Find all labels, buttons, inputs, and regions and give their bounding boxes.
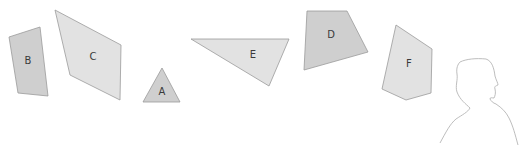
shape-c: C xyxy=(55,10,121,100)
shapes-diagram: ABCDEF xyxy=(0,0,529,151)
shapes-layer: ABCDEF xyxy=(9,10,432,102)
shape-e-polygon xyxy=(191,39,289,86)
person-silhouette-icon xyxy=(440,59,518,145)
shape-f-label: F xyxy=(406,58,412,69)
shape-e: E xyxy=(191,39,289,86)
shape-a-label: A xyxy=(159,86,166,97)
shape-d-polygon xyxy=(304,11,368,70)
shape-c-polygon xyxy=(55,10,121,100)
shape-c-label: C xyxy=(90,51,97,62)
shape-f: F xyxy=(382,25,432,100)
shape-e-label: E xyxy=(250,49,256,60)
shape-d-label: D xyxy=(327,29,335,40)
shape-a: A xyxy=(143,68,180,102)
shape-d: D xyxy=(304,11,368,70)
shape-b: B xyxy=(9,27,48,96)
shape-b-label: B xyxy=(25,55,32,66)
